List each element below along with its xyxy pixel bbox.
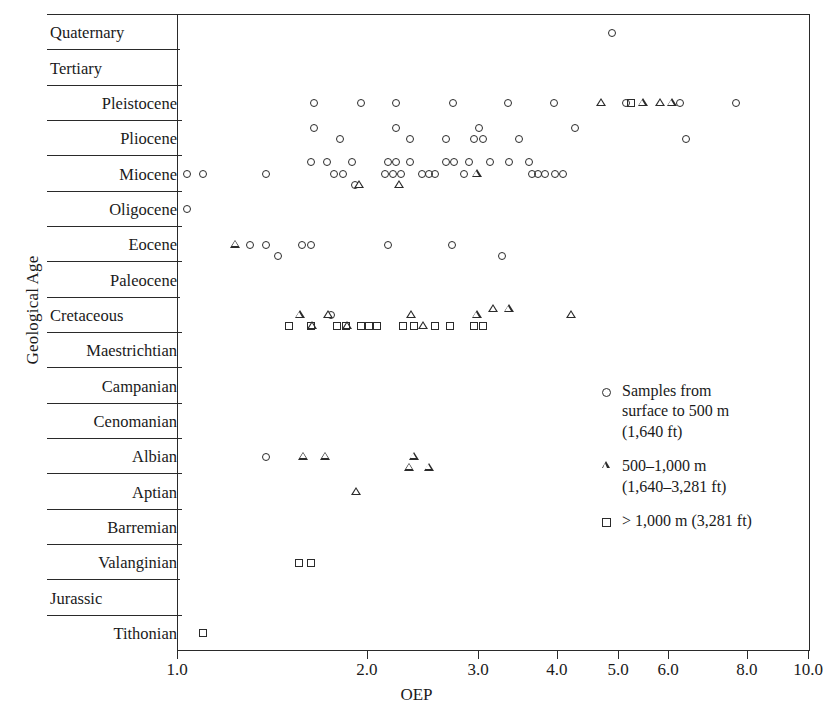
data-point-circle xyxy=(442,135,450,143)
circle-marker-icon xyxy=(602,388,611,397)
chart-root: Geological Age QuaternaryTertiaryPleisto… xyxy=(0,0,833,712)
x-tick-label: 6.0 xyxy=(638,660,698,680)
data-point-square xyxy=(373,322,381,330)
data-point-triangle xyxy=(230,240,240,248)
age-row-cenomanian: Cenomanian xyxy=(47,403,182,439)
age-row-label: Albian xyxy=(132,449,177,466)
x-tick-label: 4.0 xyxy=(527,660,587,680)
data-point-circle xyxy=(330,170,338,178)
triangle-marker-icon xyxy=(602,461,610,468)
age-row-label: Tertiary xyxy=(50,61,102,78)
age-row-miocene: Miocene xyxy=(47,155,182,191)
x-tick-mark xyxy=(367,650,368,659)
data-point-square xyxy=(342,322,350,330)
x-tick-mark xyxy=(808,650,809,659)
data-point-square xyxy=(431,322,439,330)
data-point-triangle xyxy=(504,304,514,312)
data-point-triangle xyxy=(406,310,416,318)
data-point-triangle xyxy=(404,463,414,471)
age-row-aptian: Aptian xyxy=(47,473,182,509)
square-marker-icon xyxy=(602,518,611,527)
data-point-circle xyxy=(550,99,558,107)
data-point-triangle xyxy=(320,452,330,460)
data-point-circle xyxy=(559,170,567,178)
data-point-triangle xyxy=(418,321,428,329)
data-point-circle xyxy=(442,158,450,166)
age-row-label: Cenomanian xyxy=(94,414,177,431)
x-tick-label: 10.0 xyxy=(778,660,833,680)
data-point-circle xyxy=(183,170,191,178)
data-point-circle xyxy=(298,241,306,249)
x-axis-line xyxy=(177,650,808,651)
data-point-circle xyxy=(448,241,456,249)
data-point-triangle xyxy=(295,310,305,318)
x-axis-label: OEP xyxy=(0,685,833,705)
data-point-square xyxy=(333,322,341,330)
data-point-circle xyxy=(274,252,282,260)
data-point-circle xyxy=(732,99,740,107)
age-row-pliocene: Pliocene xyxy=(47,120,182,156)
data-point-circle xyxy=(262,453,270,461)
age-row-label: Oligocene xyxy=(109,202,177,219)
data-point-circle xyxy=(246,241,254,249)
data-point-square xyxy=(627,99,635,107)
data-point-square xyxy=(357,322,365,330)
plot-area xyxy=(177,14,810,651)
x-tick-mark xyxy=(557,650,558,659)
legend-text-line: 500–1,000 m xyxy=(622,456,830,476)
data-point-triangle xyxy=(354,180,364,188)
age-row-label: Pliocene xyxy=(120,131,177,148)
data-point-square xyxy=(410,322,418,330)
age-row-tithonian: Tithonian xyxy=(47,615,182,651)
data-point-circle xyxy=(486,158,494,166)
age-row-label: Miocene xyxy=(119,167,177,184)
data-point-circle xyxy=(357,99,365,107)
data-point-circle xyxy=(307,241,315,249)
age-row-maestrichtian: Maestrichtian xyxy=(47,332,182,368)
data-point-circle xyxy=(682,135,690,143)
data-point-circle xyxy=(465,158,473,166)
x-tick-mark xyxy=(478,650,479,659)
data-point-circle xyxy=(551,170,559,178)
data-point-triangle xyxy=(472,310,482,318)
data-point-square xyxy=(285,322,293,330)
age-row-tertiary: Tertiary xyxy=(47,49,180,85)
data-point-square xyxy=(307,559,315,567)
data-point-circle xyxy=(608,29,616,37)
data-point-circle xyxy=(504,99,512,107)
data-point-square xyxy=(399,322,407,330)
age-row-label: Campanian xyxy=(102,379,177,396)
age-row-label: Cretaceous xyxy=(50,308,123,325)
data-point-circle xyxy=(183,205,191,213)
age-row-label: Pleistocene xyxy=(102,96,177,113)
data-point-circle xyxy=(525,158,533,166)
data-point-square xyxy=(365,322,373,330)
data-point-square xyxy=(470,322,478,330)
data-point-circle xyxy=(498,252,506,260)
data-point-triangle xyxy=(566,310,576,318)
data-point-circle xyxy=(262,241,270,249)
age-row-label: Maestrichtian xyxy=(86,343,177,360)
data-point-circle xyxy=(384,158,392,166)
x-tick-label: 2.0 xyxy=(337,660,397,680)
age-row-oligocene: Oligocene xyxy=(47,191,182,227)
data-point-circle xyxy=(389,170,397,178)
legend-text-line: > 1,000 m (3,281 ft) xyxy=(622,511,830,531)
data-point-triangle xyxy=(667,98,677,106)
age-row-label: Valanginian xyxy=(98,555,177,572)
data-point-circle xyxy=(392,99,400,107)
data-point-circle xyxy=(505,158,513,166)
data-point-circle xyxy=(310,99,318,107)
legend-item-triangle: 500–1,000 m(1,640–3,281 ft) xyxy=(600,456,830,497)
x-tick-mark xyxy=(747,650,748,659)
age-row-jurassic: Jurassic xyxy=(47,579,180,615)
data-point-circle xyxy=(323,158,331,166)
age-row-quaternary: Quaternary xyxy=(47,14,180,50)
x-tick-label: 3.0 xyxy=(448,660,508,680)
age-row-barremian: Barremian xyxy=(47,509,182,545)
legend-text-line: (1,640 ft) xyxy=(622,422,830,442)
age-row-label: Tithonian xyxy=(113,626,177,643)
data-point-circle xyxy=(571,124,579,132)
data-point-circle xyxy=(431,170,439,178)
data-point-circle xyxy=(310,124,318,132)
